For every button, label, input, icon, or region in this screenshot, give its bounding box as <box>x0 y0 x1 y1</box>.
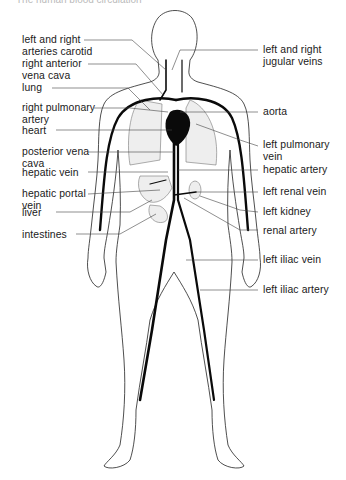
label-right-pulmonary-artery: right pulmonaryartery <box>22 102 95 126</box>
label-jugular-veins: left and rightjugular veins <box>263 44 323 68</box>
intestines <box>149 205 168 223</box>
label-hepatic-vein: hepatic vein <box>22 167 79 179</box>
label-aorta: aorta <box>263 106 287 118</box>
label-heart: heart <box>22 125 46 137</box>
label-liver: liver <box>22 207 42 219</box>
label-left-iliac-artery: left iliac artery <box>263 284 329 296</box>
body-outline <box>87 11 260 469</box>
label-hepatic-artery: hepatic artery <box>263 164 327 176</box>
left-kidney <box>189 181 201 199</box>
left-lung <box>186 100 217 165</box>
label-carotid-arteries: left and rightarteries carotid <box>22 34 92 58</box>
label-left-iliac-vein: left iliac vein <box>263 254 321 266</box>
label-left-pulmonary-vein: left pulmonaryvein <box>263 139 330 163</box>
liver <box>138 176 172 202</box>
label-left-renal-vein: left renal vein <box>263 186 326 198</box>
label-left-kidney: left kidney <box>263 206 311 218</box>
label-lung: lung <box>22 82 42 94</box>
label-intestines: intestines <box>22 229 67 241</box>
label-right-anterior-vena-cava: right anteriorvena cava <box>22 58 82 82</box>
label-renal-artery: renal artery <box>263 225 317 237</box>
